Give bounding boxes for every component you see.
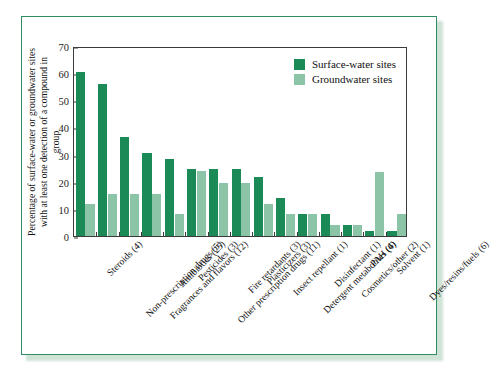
y-axis-tick-label: 70 <box>59 43 75 54</box>
bar-groundwater <box>130 194 139 236</box>
legend-item-groundwater: Groundwater sites <box>294 74 396 85</box>
bar-groundwater <box>286 214 295 236</box>
bar-groundwater <box>219 183 228 236</box>
x-axis-tick-mark <box>208 232 209 236</box>
legend-swatch-icon-groundwater <box>294 74 305 85</box>
legend-label-groundwater: Groundwater sites <box>312 74 392 85</box>
bar-groundwater <box>108 194 117 236</box>
bar-surface-water <box>209 169 218 236</box>
x-axis-tick-mark <box>252 232 253 236</box>
x-axis-tick-mark <box>341 232 342 236</box>
bar-surface-water <box>254 177 263 236</box>
bar-groundwater <box>353 225 362 236</box>
y-axis-tick-label: 60 <box>59 70 75 81</box>
bar-surface-water <box>165 159 174 236</box>
x-axis-tick-mark <box>163 232 164 236</box>
y-axis-title: Percentage of surface-water or groundwat… <box>30 47 58 237</box>
bar-groundwater <box>241 183 250 236</box>
x-axis-tick-mark <box>141 232 142 236</box>
bar-surface-water <box>276 198 285 236</box>
bar-surface-water <box>365 231 374 236</box>
bar-surface-water <box>76 72 85 236</box>
y-axis-tick-label: 10 <box>59 206 75 217</box>
x-axis-tick-mark <box>363 232 364 236</box>
legend-swatch-icon-surface-water <box>294 59 305 70</box>
bar-surface-water <box>298 214 307 236</box>
bar-surface-water <box>120 137 129 236</box>
bar-groundwater <box>330 225 339 236</box>
x-axis-tick-mark <box>297 232 298 236</box>
y-axis-tick-mark <box>74 238 78 239</box>
y-axis-tick-label: 50 <box>59 97 75 108</box>
x-axis-tick-mark <box>319 232 320 236</box>
legend-label-surface-water: Surface-water sites <box>312 59 396 70</box>
bar-groundwater <box>152 194 161 236</box>
bar-groundwater <box>175 214 184 236</box>
bar-groundwater <box>264 204 273 236</box>
y-axis-tick-label: 0 <box>64 233 74 244</box>
bar-surface-water <box>321 214 330 236</box>
y-axis-tick-mark <box>74 48 78 49</box>
y-axis-title-line1: Percentage of surface-water or groundwat… <box>26 48 38 236</box>
y-axis-tick-label: 40 <box>59 124 75 135</box>
bar-groundwater <box>197 171 206 236</box>
bar-groundwater <box>85 204 94 236</box>
bar-groundwater <box>375 172 384 236</box>
x-axis-tick-mark <box>230 232 231 236</box>
x-axis-tick-label: Dyes/resins/fuels (6) <box>427 239 490 302</box>
chart-legend: Surface-water sites Groundwater sites <box>294 59 396 85</box>
x-axis-tick-mark <box>185 232 186 236</box>
bar-groundwater <box>397 214 406 236</box>
y-axis-tick-label: 30 <box>59 151 75 162</box>
legend-item-surface-water: Surface-water sites <box>294 59 396 70</box>
x-axis-tick-mark <box>96 232 97 236</box>
bar-surface-water <box>232 169 241 236</box>
bar-surface-water <box>98 84 107 236</box>
bar-surface-water <box>387 231 396 236</box>
y-axis-tick-label: 20 <box>59 178 75 189</box>
x-axis-tick-mark <box>119 232 120 236</box>
bar-surface-water <box>343 225 352 236</box>
bar-surface-water <box>187 169 196 236</box>
x-axis-tick-mark <box>274 232 275 236</box>
bar-surface-water <box>142 153 151 236</box>
x-axis-tick-label: Steroids (4) <box>105 239 144 278</box>
x-axis-tick-mark <box>386 232 387 236</box>
bar-groundwater <box>308 214 317 236</box>
